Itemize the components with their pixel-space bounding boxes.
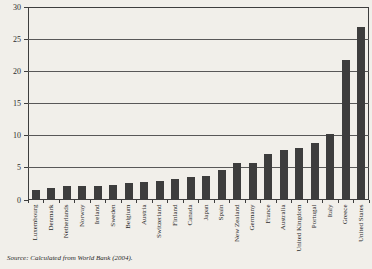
y-axis-label: 0 — [0, 196, 21, 205]
y-axis-tick — [24, 71, 28, 72]
bar — [171, 179, 179, 200]
x-axis-tick — [369, 200, 370, 203]
bar — [94, 186, 102, 200]
x-axis-label: France — [263, 204, 272, 254]
bar — [125, 183, 133, 200]
x-axis-label: Luxembourg — [31, 204, 40, 254]
x-axis-tick — [245, 200, 246, 203]
x-axis-tick — [260, 200, 261, 203]
x-axis-tick — [28, 200, 29, 203]
x-axis-tick — [291, 200, 292, 203]
gridline — [28, 135, 369, 136]
x-axis-label: United States — [356, 204, 365, 254]
y-axis-label: 25 — [0, 35, 21, 44]
x-axis-label: Japan — [201, 204, 210, 254]
bar — [156, 181, 164, 200]
x-axis-label: Finland — [170, 204, 179, 254]
x-axis-tick — [198, 200, 199, 203]
y-axis-tick — [24, 103, 28, 104]
x-axis-label: Austria — [139, 204, 148, 254]
x-axis-tick — [167, 200, 168, 203]
x-axis-tick — [338, 200, 339, 203]
x-axis-tick — [74, 200, 75, 203]
x-axis-label: Denmark — [46, 204, 55, 254]
x-axis-label: Canada — [186, 204, 195, 254]
x-axis-label: Netherlands — [62, 204, 71, 254]
y-axis-label: 15 — [0, 99, 21, 108]
bar — [78, 186, 86, 200]
y-axis-tick — [24, 167, 28, 168]
bar — [326, 134, 334, 200]
source-note: Source: Calculated from World Bank (2004… — [7, 254, 133, 262]
x-axis-label: Switzerland — [155, 204, 164, 254]
x-axis-label: Australia — [279, 204, 288, 254]
x-axis-label: Spain — [217, 204, 226, 254]
y-axis-tick — [24, 135, 28, 136]
x-axis-tick — [121, 200, 122, 203]
gridline — [28, 71, 369, 72]
bar — [202, 176, 210, 200]
gridline — [28, 103, 369, 104]
x-axis-tick — [59, 200, 60, 203]
bar — [264, 154, 272, 200]
bar — [187, 177, 195, 200]
bar — [32, 190, 40, 200]
x-axis-tick — [276, 200, 277, 203]
y-axis-label: 30 — [0, 3, 21, 12]
bar — [357, 27, 365, 200]
x-axis-tick — [183, 200, 184, 203]
x-axis-tick — [214, 200, 215, 203]
x-axis-label: Italy — [325, 204, 334, 254]
y-axis-label: 20 — [0, 67, 21, 76]
bar — [47, 188, 55, 200]
x-axis-label: Sweden — [108, 204, 117, 254]
x-axis-label: Ireland — [93, 204, 102, 254]
x-axis-label: Germany — [248, 204, 257, 254]
x-axis-tick — [105, 200, 106, 203]
x-axis-tick — [90, 200, 91, 203]
x-axis-tick — [136, 200, 137, 203]
x-axis-tick — [307, 200, 308, 203]
bar — [63, 186, 71, 200]
bar — [109, 185, 117, 200]
x-axis-label: United Kingdom — [294, 204, 303, 254]
bar — [249, 163, 257, 200]
bar — [342, 60, 350, 200]
bar — [218, 170, 226, 200]
x-axis-label: New Zealand — [232, 204, 241, 254]
x-axis-label: Norway — [77, 204, 86, 254]
x-axis-tick — [322, 200, 323, 203]
bar — [295, 148, 303, 200]
y-axis-label: 10 — [0, 131, 21, 140]
x-axis-tick — [229, 200, 230, 203]
bar-chart-figure: 051015202530LuxembourgDenmarkNetherlands… — [0, 0, 372, 269]
x-axis-label: Greece — [341, 204, 350, 254]
y-axis-label: 5 — [0, 163, 21, 172]
bar — [140, 182, 148, 200]
bar — [233, 163, 241, 200]
y-axis-tick — [24, 39, 28, 40]
x-axis-tick — [152, 200, 153, 203]
x-axis-tick — [353, 200, 354, 203]
gridline — [28, 39, 369, 40]
bar — [280, 150, 288, 200]
x-axis-tick — [43, 200, 44, 203]
bar — [311, 143, 319, 200]
x-axis-label: Portugal — [310, 204, 319, 254]
y-axis-tick — [24, 7, 28, 8]
x-axis-label: Belgium — [124, 204, 133, 254]
